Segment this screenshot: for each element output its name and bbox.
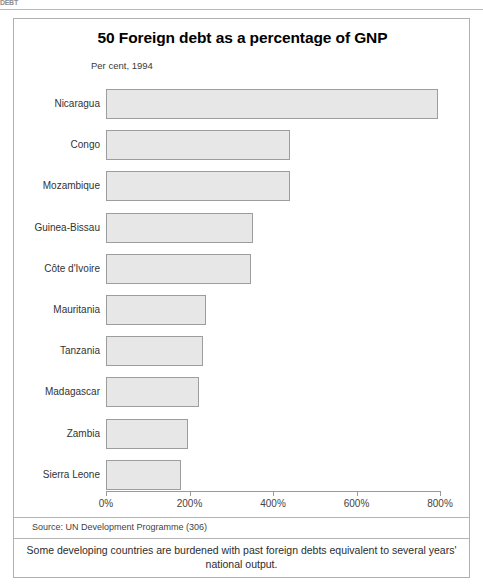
footer-divider-top — [14, 517, 469, 518]
bar-category-label: Mozambique — [43, 171, 100, 201]
x-axis-tick-mark — [106, 491, 107, 496]
x-axis-tick-label: 0% — [99, 498, 113, 509]
bar-row: Nicaragua — [106, 89, 440, 119]
bar — [106, 171, 290, 201]
bar — [106, 460, 181, 490]
bar — [106, 377, 199, 407]
bar — [106, 254, 251, 284]
bar-category-label: Sierra Leone — [43, 460, 100, 490]
x-axis-tick-mark — [190, 491, 191, 496]
bar — [106, 89, 438, 119]
bar-row: Guinea-Bissau — [106, 213, 440, 243]
bar-row: Mozambique — [106, 171, 440, 201]
chart-title: 50 Foreign debt as a percentage of GNP — [14, 29, 471, 47]
source-note: Source: UN Development Programme (306) — [32, 522, 207, 532]
page-header-rule — [0, 9, 483, 10]
bar-category-label: Guinea-Bissau — [34, 213, 100, 243]
x-axis-tick-mark — [273, 491, 274, 496]
x-axis-tick-mark — [440, 491, 441, 496]
bar — [106, 213, 253, 243]
bar-category-label: Mauritania — [53, 295, 100, 325]
bar — [106, 130, 290, 160]
bar-row: Zambia — [106, 419, 440, 449]
bar — [106, 295, 206, 325]
x-axis-tick-label: 200% — [177, 498, 203, 509]
bar-chart-plot-area: 0%200%400%600%800% NicaraguaCongoMozambi… — [106, 77, 446, 491]
bar-row: Côte d'Ivoire — [106, 254, 440, 284]
x-axis-tick-mark — [357, 491, 358, 496]
footer-divider-bottom — [14, 538, 469, 539]
figure-caption: Some developing countries are burdened w… — [26, 543, 457, 571]
bar-category-label: Congo — [71, 130, 100, 160]
bar-row: Madagascar — [106, 377, 440, 407]
bar — [106, 419, 188, 449]
bar-category-label: Nicaragua — [54, 89, 100, 119]
bar-row: Tanzania — [106, 336, 440, 366]
bar-category-label: Madagascar — [45, 377, 100, 407]
page-header-strip: DEBT — [0, 0, 60, 6]
bar-category-label: Tanzania — [60, 336, 100, 366]
bar — [106, 336, 203, 366]
bar-row: Sierra Leone — [106, 460, 440, 490]
bar-row: Mauritania — [106, 295, 440, 325]
bar-category-label: Zambia — [67, 419, 100, 449]
x-axis-tick-label: 400% — [260, 498, 286, 509]
x-axis-tick-label: 600% — [344, 498, 370, 509]
chart-subtitle: Per cent, 1994 — [91, 60, 153, 71]
x-axis-tick-label: 800% — [427, 498, 453, 509]
bar-category-label: Côte d'Ivoire — [44, 254, 100, 284]
bar-row: Congo — [106, 130, 440, 160]
figure-frame: 50 Foreign debt as a percentage of GNP P… — [13, 18, 470, 578]
